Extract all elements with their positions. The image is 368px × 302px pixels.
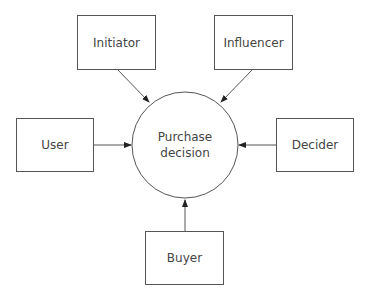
center-label-line1: Purchase bbox=[135, 129, 235, 145]
node-initiator-label: Initiator bbox=[93, 36, 140, 50]
edge-influencer-arrow bbox=[221, 69, 253, 102]
center-label-line2: decision bbox=[135, 145, 235, 161]
node-buyer-label: Buyer bbox=[167, 251, 202, 265]
node-user-label: User bbox=[41, 138, 68, 152]
node-buyer: Buyer bbox=[145, 231, 224, 285]
node-decider: Decider bbox=[276, 118, 354, 172]
edge-initiator-arrow bbox=[117, 69, 149, 102]
node-user: User bbox=[16, 118, 94, 172]
node-initiator: Initiator bbox=[77, 15, 156, 70]
node-influencer-label: Influencer bbox=[223, 36, 283, 50]
node-influencer: Influencer bbox=[214, 15, 293, 70]
node-decider-label: Decider bbox=[292, 138, 339, 152]
purchase-decision-label: Purchase decision bbox=[135, 129, 235, 161]
